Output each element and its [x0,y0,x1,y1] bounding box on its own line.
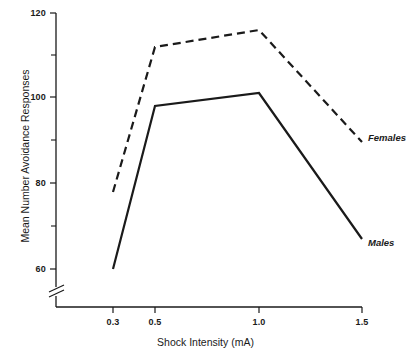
series-label-males: Males [368,237,394,248]
x-tick-label-0-3: 0.3 [106,317,119,327]
chart-plot-area [0,0,411,359]
x-tick-label-1-0: 1.0 [252,317,265,327]
x-axis-title: Shock Intensity (mA) [0,336,411,348]
x-tick-label-1-5: 1.5 [355,317,368,327]
series-line-females [113,30,362,192]
series-label-females: Females [368,132,406,143]
y-tick-label-120: 120 [18,8,46,18]
y-axis-title: Mean Number Avoidance Responses [19,36,31,276]
series-line-males [113,93,362,269]
x-tick-label-0-5: 0.5 [148,317,161,327]
chart-figure: 120 100 80 60 0.3 0.5 1.0 1.5 Females Ma… [0,0,411,359]
